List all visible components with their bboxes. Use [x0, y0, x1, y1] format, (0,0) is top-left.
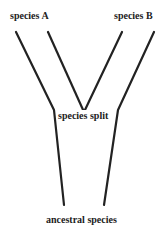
inner-left-branch	[48, 32, 84, 112]
ancestral-species-label: ancestral species	[46, 214, 117, 225]
outer-right-branch	[104, 32, 154, 205]
species-b-label: species B	[114, 10, 153, 21]
species-split-label: species split	[58, 110, 108, 121]
outer-left-branch	[16, 32, 64, 205]
inner-right-branch	[84, 32, 122, 112]
species-a-label: species A	[10, 10, 49, 21]
